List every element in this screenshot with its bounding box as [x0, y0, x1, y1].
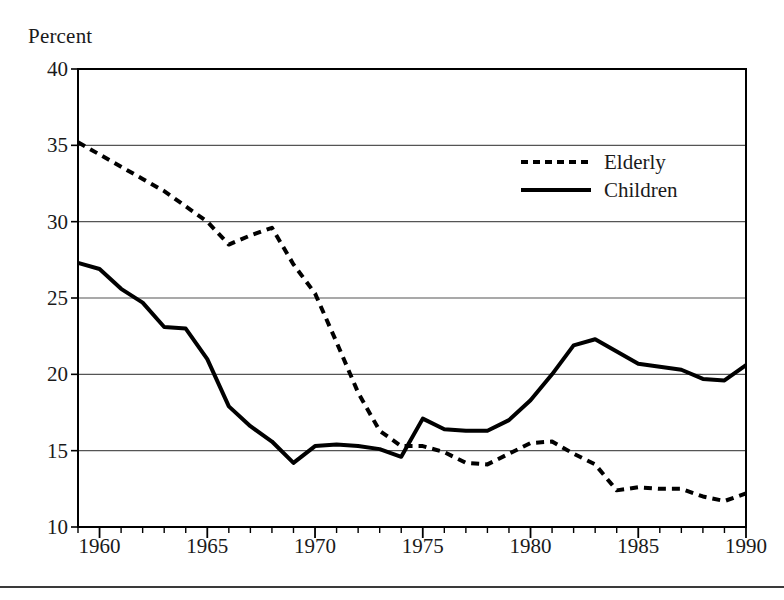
y-tick-label: 15	[24, 438, 68, 463]
x-tick-label: 1970	[280, 534, 350, 559]
y-tick-label: 35	[24, 133, 68, 158]
page-bottom-rule	[0, 586, 784, 588]
legend-label-children: Children	[604, 176, 678, 204]
legend-label-elderly: Elderly	[604, 148, 666, 176]
legend-entry-elderly: Elderly	[520, 148, 678, 176]
y-axis-ticks	[71, 69, 78, 527]
x-tick-label: 1975	[388, 534, 458, 559]
y-tick-label: 25	[24, 286, 68, 311]
x-tick-label: 1965	[172, 534, 242, 559]
x-tick-label: 1960	[65, 534, 135, 559]
y-tick-label: 10	[24, 515, 68, 540]
legend-entry-children: Children	[520, 176, 678, 204]
x-tick-label: 1985	[603, 534, 673, 559]
chart-plot-area	[0, 0, 784, 600]
y-tick-label: 20	[24, 362, 68, 387]
chart-figure: Percent 10152025303540 19601965197019751…	[0, 0, 784, 600]
chart-legend: Elderly Children	[520, 148, 678, 204]
solid-line-swatch	[520, 183, 592, 197]
x-tick-label: 1990	[711, 534, 781, 559]
y-tick-label: 40	[24, 57, 68, 82]
y-axis-tick-labels: 10152025303540	[20, 0, 68, 600]
y-tick-label: 30	[24, 209, 68, 234]
dashed-line-swatch	[520, 155, 592, 169]
x-tick-label: 1980	[496, 534, 566, 559]
